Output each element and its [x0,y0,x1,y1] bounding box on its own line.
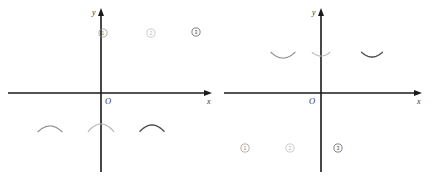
upward-parabolas-panel: O x y 123 [0,0,218,186]
curve-tag-3: 3 [334,144,342,152]
parabola-curve-1 [38,126,62,132]
origin-label: O [105,96,111,106]
downward-parabolas-panel: O x y 123 [218,0,435,186]
right-axes [224,8,422,172]
parabola-curve-1 [271,52,295,58]
y-axis-arrow [318,8,324,16]
left-plot-svg: O x y 123 [0,0,218,186]
y-axis-label: y [91,8,96,17]
curve-tag-label-3: 3 [337,145,340,151]
curve-tag-2: 2 [147,29,155,37]
right-curves [271,52,382,58]
curve-tag-label-1: 1 [102,30,105,36]
curve-tag-label-3: 3 [195,29,198,35]
right-curve-tags: 123 [241,144,342,152]
y-axis-arrow [98,8,104,16]
parabola-figure: O x y 123 O x y 123 [0,0,435,186]
x-axis-label: x [206,97,211,106]
parabola-curve-3 [362,52,383,57]
curve-tag-2: 2 [286,144,294,152]
curve-tag-label-2: 2 [150,30,153,36]
curve-tag-1: 1 [99,29,107,37]
curve-tag-label-1: 1 [244,145,247,151]
origin-label: O [309,96,315,106]
x-axis-label: x [416,97,421,106]
left-curve-tags: 123 [99,28,200,37]
x-axis-arrow [204,90,212,96]
curve-tag-1: 1 [241,144,249,152]
x-axis-arrow [414,90,422,96]
left-axes [8,8,212,172]
right-plot-svg: O x y 123 [218,0,435,186]
parabola-curve-3 [140,125,164,131]
y-axis-label: y [311,8,316,17]
curve-tag-3: 3 [192,28,200,36]
curve-tag-label-2: 2 [289,145,292,151]
